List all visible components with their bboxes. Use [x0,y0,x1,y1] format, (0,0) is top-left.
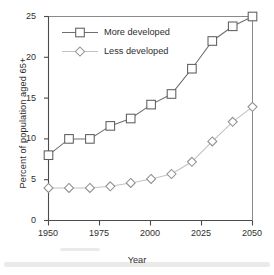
y-tick-label-0: 0 [14,215,36,225]
x-tick-label-2050: 2050 [232,228,272,238]
legend-swatches [62,28,98,56]
y-tick-label-15: 15 [14,93,36,103]
data-markers-less-developed [44,102,257,192]
y-tick-label-20: 20 [14,52,36,62]
legend-label-more-developed: More developed [104,27,170,37]
x-axis-title: Year [0,255,274,265]
y-tick-label-25: 25 [14,11,36,21]
chart-figure: Percent of population aged 65+ Year 25 2… [0,0,274,275]
x-tick-marks [49,221,253,226]
series-less-developed [44,102,257,192]
x-tick-label-1950: 1950 [28,228,68,238]
y-tick-label-10: 10 [14,133,36,143]
x-tick-label-1975: 1975 [79,228,119,238]
x-tick-label-2000: 2000 [130,228,170,238]
legend-swatch-more-developed [62,28,98,37]
y-tick-label-5: 5 [14,174,36,184]
legend-swatch-less-developed [62,47,98,56]
legend-label-less-developed: Less developed [104,46,168,56]
x-tick-label-2025: 2025 [181,228,221,238]
